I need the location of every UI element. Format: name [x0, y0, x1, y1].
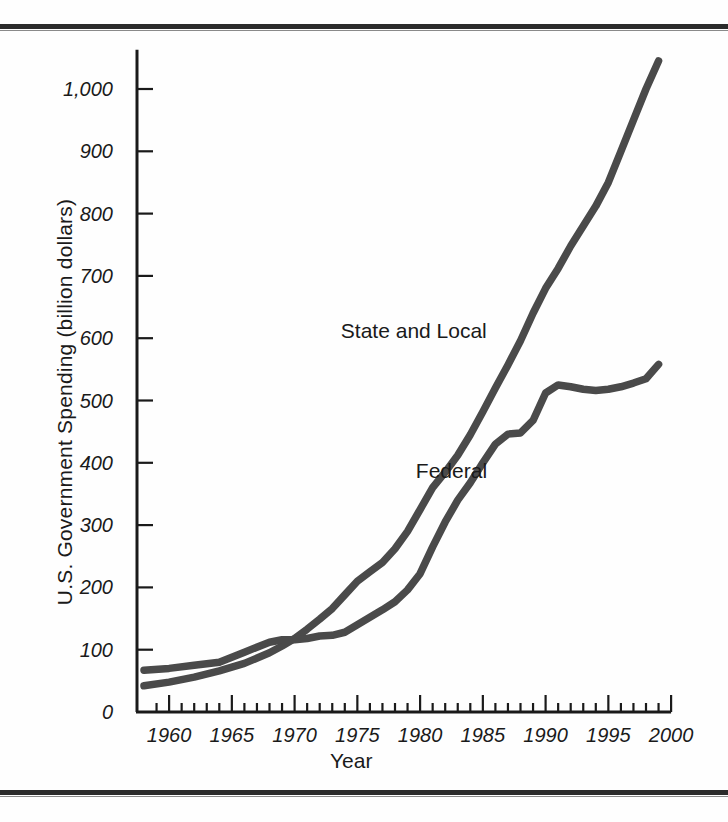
x-tick-label: 2000 — [649, 724, 694, 747]
x-tick-label: 1980 — [398, 724, 443, 747]
x-tick-label: 1970 — [272, 724, 317, 747]
x-tick-label: 1985 — [461, 724, 506, 747]
series-group — [144, 61, 659, 686]
x-axis-title: Year — [330, 749, 372, 773]
x-tick-label: 1995 — [586, 724, 631, 747]
series-label-federal: Federal — [416, 459, 487, 483]
series-line-federal — [144, 364, 659, 670]
y-tick-label: 0 — [0, 701, 113, 724]
y-axis-title: U.S. Government Spending (billion dollar… — [53, 122, 77, 682]
figure-container: 01002003004005006007008009001,000 196019… — [0, 0, 728, 822]
series-label-state-and-local: State and Local — [341, 319, 487, 343]
x-tick-label: 1960 — [147, 724, 192, 747]
x-tick-label: 1990 — [523, 724, 568, 747]
y-tick-label: 1,000 — [0, 78, 113, 101]
axes-group — [136, 50, 671, 712]
x-tick-label: 1965 — [210, 724, 255, 747]
x-tick-label: 1975 — [335, 724, 380, 747]
